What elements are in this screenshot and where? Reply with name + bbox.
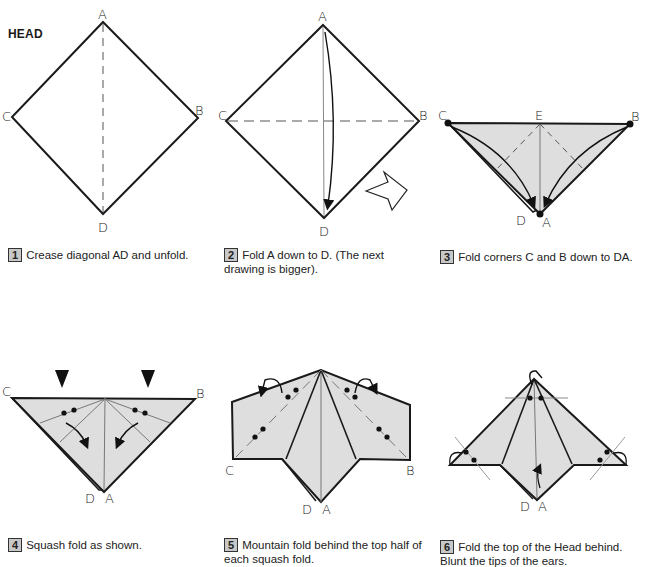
- label-A: A: [318, 9, 327, 24]
- label-C: C: [225, 463, 234, 478]
- step-1-diagram: A B C D: [2, 7, 204, 235]
- step-number-badge: 3: [440, 250, 454, 264]
- step-text: Mountain fold behind the top half of eac…: [224, 539, 422, 565]
- step-3-caption: 3Fold corners C and B down to DA.: [440, 250, 640, 264]
- label-B: B: [195, 103, 204, 118]
- label-B: B: [196, 386, 205, 401]
- step-text: Fold the top of the Head behind. Blunt t…: [440, 541, 622, 567]
- label-D: D: [516, 213, 526, 228]
- label-D: D: [319, 224, 329, 239]
- label-C: C: [2, 109, 11, 124]
- label-C: C: [2, 384, 11, 399]
- label-A: A: [542, 215, 551, 230]
- step-number-badge: 2: [224, 248, 238, 262]
- step-3-diagram: C E B D A: [438, 108, 640, 230]
- label-E: E: [535, 108, 543, 123]
- label-B: B: [631, 109, 640, 124]
- label-A: A: [322, 502, 331, 517]
- label-A: A: [538, 499, 547, 514]
- step-5-diagram: C B D A: [225, 370, 415, 517]
- step-text: Crease diagonal AD and unfold.: [26, 249, 188, 261]
- step-text: Squash fold as shown.: [26, 539, 142, 551]
- step-1-caption: 1Crease diagonal AD and unfold.: [8, 248, 208, 262]
- step-6-caption: 6Fold the top of the Head behind. Blunt …: [440, 540, 640, 567]
- step-4-caption: 4Squash fold as shown.: [8, 538, 208, 552]
- label-A: A: [98, 7, 107, 22]
- step-2-diagram: A B C D: [218, 9, 428, 239]
- label-D: D: [302, 502, 312, 517]
- step-text: Fold A down to D. (The next drawing is b…: [224, 249, 384, 275]
- label-D: D: [520, 499, 530, 514]
- label-D: D: [98, 220, 108, 235]
- step-number-badge: 1: [8, 248, 22, 262]
- label-B: B: [406, 463, 415, 478]
- step-2-caption: 2Fold A down to D. (The next drawing is …: [224, 248, 424, 276]
- step-5-caption: 5Mountain fold behind the top half of ea…: [224, 538, 424, 566]
- diagrams: A B C D A B C D C E B D A: [0, 0, 645, 567]
- step-number-badge: 4: [8, 538, 22, 552]
- label-D: D: [85, 491, 95, 506]
- label-B: B: [419, 108, 428, 123]
- label-A: A: [105, 491, 114, 506]
- step-6-diagram: D A: [450, 371, 627, 514]
- step-4-diagram: C B D A: [2, 370, 205, 506]
- outline-arrow-right-icon: [366, 172, 407, 210]
- step-number-badge: 5: [224, 538, 238, 552]
- step-text: Fold corners C and B down to DA.: [458, 251, 633, 263]
- step-number-badge: 6: [440, 540, 454, 554]
- label-C: C: [438, 108, 447, 123]
- label-C: C: [218, 108, 227, 123]
